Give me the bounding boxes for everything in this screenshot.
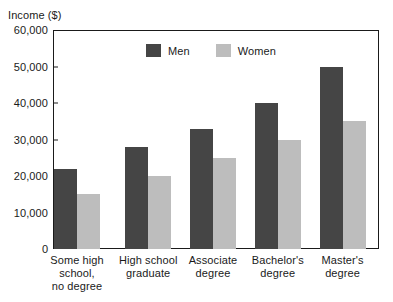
y-axis-title: Income ($) bbox=[8, 9, 62, 21]
legend-label-women: Women bbox=[238, 45, 276, 57]
legend-item-women: Women bbox=[216, 44, 276, 57]
bar-men bbox=[125, 147, 148, 249]
y-axis-tick-label: 20,000 bbox=[14, 170, 48, 182]
bar-group bbox=[190, 30, 236, 249]
bar-men bbox=[320, 67, 343, 250]
bar-men bbox=[255, 103, 278, 249]
bar-women bbox=[148, 176, 171, 249]
bar-women bbox=[278, 140, 301, 250]
bar-men bbox=[190, 129, 213, 249]
bar-group bbox=[320, 30, 366, 249]
x-axis-category-label: Some highschool,no degree bbox=[45, 254, 110, 293]
legend-item-men: Men bbox=[146, 44, 190, 57]
y-axis-tick-label: 10,000 bbox=[14, 207, 48, 219]
legend-swatch-men bbox=[146, 44, 161, 57]
legend-label-men: Men bbox=[168, 45, 190, 57]
x-axis-category-label: Master'sdegree bbox=[310, 254, 375, 280]
bar-group bbox=[54, 30, 100, 249]
bar-women bbox=[213, 158, 236, 249]
bar-women bbox=[77, 194, 100, 249]
bar-men bbox=[54, 169, 77, 249]
bars-layer bbox=[54, 30, 378, 249]
legend-swatch-women bbox=[216, 44, 231, 57]
y-axis-tick-label: 50,000 bbox=[14, 61, 48, 73]
bar-group bbox=[255, 30, 301, 249]
income-by-education-bar-chart: Income ($) 010,00020,00030,00040,00050,0… bbox=[0, 0, 393, 302]
chart-legend: Men Women bbox=[146, 44, 276, 57]
x-axis-category-label: Bachelor'sdegree bbox=[245, 254, 310, 280]
bar-women bbox=[343, 121, 366, 249]
bar-group bbox=[125, 30, 171, 249]
y-axis-tick-label: 60,000 bbox=[14, 24, 48, 36]
x-axis-category-label: High schoolgraduate bbox=[116, 254, 181, 280]
y-axis-tick-label: 40,000 bbox=[14, 97, 48, 109]
x-axis-category-label: Associatedegree bbox=[181, 254, 246, 280]
y-axis-tick-label: 30,000 bbox=[14, 134, 48, 146]
